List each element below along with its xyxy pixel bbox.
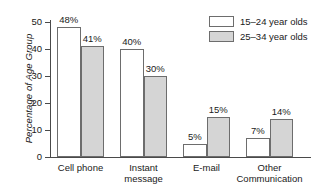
- bar-3-0: [246, 138, 270, 157]
- y-tick-label-40: 40: [0, 44, 42, 54]
- legend-swatch-icon-dark: [209, 31, 234, 42]
- x-axis-label-line: message: [94, 173, 194, 184]
- y-tick-30: [45, 76, 50, 77]
- x-axis-label-3: OtherCommunication: [220, 162, 320, 184]
- bar-chart: Percentage of Age Group 01020304050 48%4…: [0, 0, 330, 187]
- legend-item-1: 25–34 year olds: [209, 29, 308, 44]
- bar-value-label-1-1: 30%: [138, 64, 174, 74]
- legend-swatch-icon-light: [209, 16, 234, 27]
- bar-0-1: [81, 46, 105, 157]
- bar-3-1: [270, 119, 294, 157]
- y-tick-50: [45, 22, 50, 23]
- y-tick-label-30: 30: [0, 71, 42, 81]
- bar-value-label-1-0: 40%: [114, 37, 150, 47]
- bar-2-1: [207, 117, 231, 158]
- x-axis-label-line: Other: [220, 162, 320, 173]
- bar-value-label-3-1: 14%: [264, 107, 300, 117]
- y-tick-20: [45, 103, 50, 104]
- y-tick-10: [45, 130, 50, 131]
- y-tick-label-0: 0: [0, 152, 42, 162]
- y-axis-line: [50, 20, 51, 158]
- bar-value-label-0-0: 48%: [51, 15, 87, 25]
- bar-2-0: [183, 144, 207, 158]
- legend-label-1: 25–34 year olds: [240, 32, 308, 42]
- x-axis-label-line: Communication: [220, 173, 320, 184]
- bar-0-0: [57, 27, 81, 157]
- y-tick-label-10: 10: [0, 125, 42, 135]
- legend-label-0: 15–24 year olds: [240, 17, 308, 27]
- bar-value-label-0-1: 41%: [75, 34, 111, 44]
- y-tick-40: [45, 49, 50, 50]
- x-axis-line: [50, 157, 311, 158]
- y-tick-label-50: 50: [0, 17, 42, 27]
- bar-value-label-2-1: 15%: [201, 105, 237, 115]
- bar-1-1: [144, 76, 168, 157]
- y-tick-label-20: 20: [0, 98, 42, 108]
- y-tick-0: [45, 157, 50, 158]
- legend: 15–24 year olds 25–34 year olds: [209, 14, 308, 44]
- y-axis-title: Percentage of Age Group: [23, 14, 34, 164]
- legend-item-0: 15–24 year olds: [209, 14, 308, 29]
